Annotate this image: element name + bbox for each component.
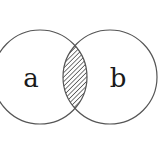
set-b-label: b — [110, 63, 127, 93]
venn-diagram: a b — [0, 0, 167, 142]
set-a-label: a — [23, 63, 39, 93]
